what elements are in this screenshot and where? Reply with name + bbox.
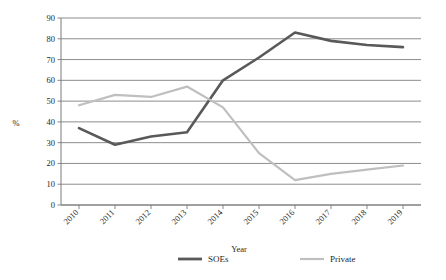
x-tick-label: 2011 <box>98 207 117 226</box>
legend-label-soes[interactable]: SOEs <box>208 254 229 264</box>
y-axis-title: % <box>12 118 19 128</box>
y-tick-label: 40 <box>47 117 56 127</box>
series-line-private <box>79 87 403 181</box>
y-tick-label: 70 <box>47 55 56 65</box>
x-tick-label: 2013 <box>169 207 188 226</box>
x-tick-label: 2014 <box>205 207 225 227</box>
y-axis: 0102030405060708090 <box>47 13 62 210</box>
x-axis-title-label: Year <box>231 244 247 254</box>
x-tick-label: 2018 <box>349 207 368 226</box>
x-axis: 2010201120122013201420152016201720182019 <box>61 205 421 226</box>
x-axis-title: Year <box>231 244 247 254</box>
x-tick-label: 2010 <box>61 207 80 226</box>
y-tick-label: 10 <box>47 179 56 189</box>
data-series <box>79 33 403 181</box>
y-tick-label: 60 <box>47 75 56 85</box>
line-chart: 0102030405060708090 20102011201220132014… <box>0 0 446 280</box>
x-tick-label: 2012 <box>133 207 152 226</box>
y-tick-label: 80 <box>47 34 56 44</box>
x-tick-label: 2016 <box>277 207 296 226</box>
y-tick-label: 0 <box>51 200 55 210</box>
y-tick-label: 20 <box>47 158 56 168</box>
x-tick-label: 2015 <box>241 207 260 226</box>
y-tick-label: 30 <box>47 138 56 148</box>
x-tick-label: 2019 <box>385 207 404 226</box>
x-tick-label: 2017 <box>313 207 332 226</box>
legend-label-private[interactable]: Private <box>330 254 356 264</box>
series-line-soes <box>79 33 403 145</box>
y-tick-label: 90 <box>47 13 56 23</box>
chart-legend: SOEsPrivate <box>178 254 356 264</box>
y-tick-label: 50 <box>47 96 56 106</box>
chart-canvas: 0102030405060708090 20102011201220132014… <box>0 0 446 280</box>
y-axis-title-label: % <box>12 118 19 128</box>
